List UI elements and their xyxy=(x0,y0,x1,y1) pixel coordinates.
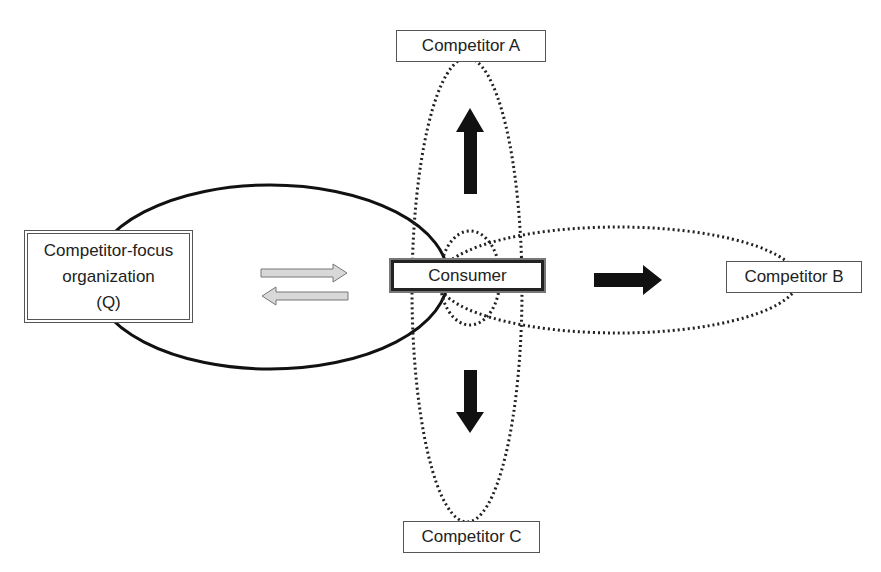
arrow-right-black xyxy=(594,265,662,295)
competitor-focus-organization-box: Competitor-focus organization (Q) xyxy=(24,230,193,323)
focus-org-line3: (Q) xyxy=(96,290,121,316)
competitor-c-label: Competitor C xyxy=(421,524,521,550)
competitor-a-box: Competitor A xyxy=(396,30,546,62)
arrow-down-black xyxy=(456,370,484,433)
arrow-left-gray xyxy=(262,287,348,305)
competitor-b-box: Competitor B xyxy=(726,261,862,293)
arrow-up-black xyxy=(456,108,484,194)
competitor-b-label: Competitor B xyxy=(744,264,843,290)
competitor-c-box: Competitor C xyxy=(403,521,540,553)
consumer-box: Consumer xyxy=(391,260,544,291)
competitor-a-label: Competitor A xyxy=(422,33,520,59)
arrow-right-gray xyxy=(261,264,347,282)
focus-org-line2: organization xyxy=(62,264,155,290)
consumer-label: Consumer xyxy=(428,263,506,289)
focus-org-line1: Competitor-focus xyxy=(44,238,173,264)
